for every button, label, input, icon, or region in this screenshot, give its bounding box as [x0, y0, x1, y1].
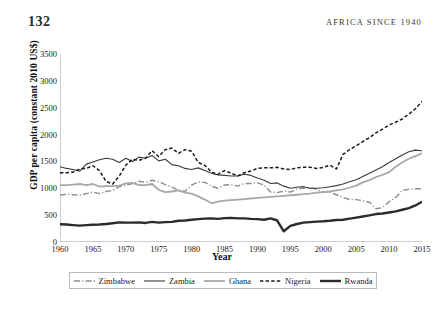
legend-item-ghana[interactable]: Ghana [204, 276, 251, 286]
y-tick-label: 1500 [40, 156, 57, 166]
y-tick-label: 2000 [40, 130, 57, 140]
y-tick-label: 1000 [40, 183, 57, 193]
legend-swatch-nigeria [260, 277, 281, 285]
legend-label: Zambia [169, 276, 195, 286]
y-axis-tick-labels: 0500100015002000250030003500 [22, 54, 57, 242]
x-axis-label: Year [0, 251, 444, 262]
legend-item-zambia[interactable]: Zambia [144, 276, 195, 286]
running-head: 132 AFRICA SINCE 1940 [0, 14, 444, 32]
legend-label: Ghana [229, 276, 251, 286]
y-tick-label: 3500 [40, 49, 57, 59]
series-line-ghana [60, 153, 422, 203]
y-tick-label: 2500 [40, 103, 57, 113]
legend-item-nigeria[interactable]: Nigeria [260, 276, 311, 286]
legend-label: Rwanda [345, 276, 373, 286]
series-line-nigeria [60, 101, 422, 184]
legend-swatch-rwanda [320, 277, 341, 285]
series-line-zimbabwe [60, 180, 422, 208]
legend-item-zimbabwe[interactable]: Zimbabwe [74, 276, 135, 286]
legend-swatch-zambia [144, 277, 165, 285]
legend-label: Zimbabwe [99, 276, 135, 286]
legend-label: Nigeria [285, 276, 311, 286]
plot-area [60, 54, 422, 242]
y-tick-label: 500 [44, 210, 57, 220]
line-chart: GDP per capita (constant 2010 US$) 05001… [0, 44, 444, 310]
y-tick-label: 3000 [40, 76, 57, 86]
book-title: AFRICA SINCE 1940 [326, 17, 422, 27]
legend-swatch-zimbabwe [74, 277, 95, 285]
series-line-rwanda [60, 202, 422, 232]
figure-page: 132 AFRICA SINCE 1940 GDP per capita (co… [0, 0, 444, 310]
legend-item-rwanda[interactable]: Rwanda [320, 276, 373, 286]
legend-swatch-ghana [204, 277, 225, 285]
chart-legend: ZimbabweZambiaGhanaNigeriaRwanda [69, 272, 377, 289]
plot-svg [60, 54, 422, 242]
